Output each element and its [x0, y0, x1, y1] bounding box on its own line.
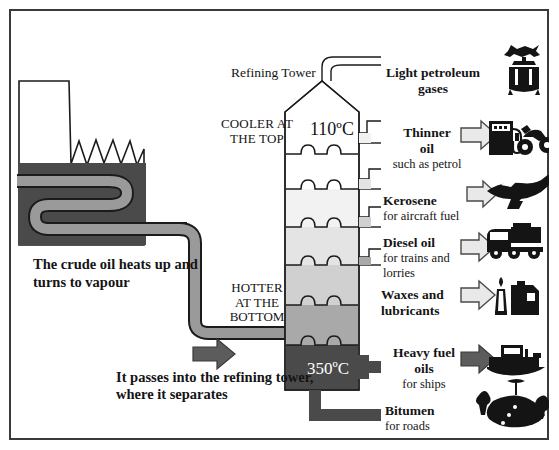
diagram-frame: Refining Tower COOLER AT THE TOP HOTTER … — [9, 9, 549, 440]
label-main2-1: oil — [420, 141, 434, 156]
arrow-passes-into-tower — [193, 339, 235, 369]
gas-stove-icon — [504, 45, 540, 95]
hotter-at-bottom-label: HOTTER AT THE BOTTOM — [209, 281, 305, 325]
label-light-petroleum-gases: Light petroleum gases — [379, 65, 487, 97]
label-sub-1: such as petrol — [383, 157, 471, 172]
label-sub-6: for roads — [385, 419, 469, 434]
label-sub-2: for aircraft fuel — [383, 209, 475, 224]
hotter-line-2: AT THE — [209, 296, 305, 311]
label-main-4: Waxes and — [381, 287, 444, 302]
cooler-at-top-label: COOLER AT THE TOP — [207, 117, 307, 146]
label-kerosene: Kerosene for aircraft fuel — [383, 193, 475, 224]
label-sub-5: for ships — [381, 377, 467, 392]
cooler-line-2: THE TOP — [207, 132, 307, 147]
label-main-5: Heavy fuel — [393, 345, 455, 360]
airplane-icon — [487, 175, 549, 209]
label-main2-4: lubricants — [381, 303, 440, 318]
outlet-stubs — [359, 133, 371, 265]
heavy-fuel-outlet — [353, 355, 381, 379]
hotter-line-3: BOTTOM — [209, 310, 305, 325]
label-main2-0: gases — [418, 81, 448, 96]
label-heavy-fuel-oils: Heavy fuel oils for ships — [381, 345, 467, 392]
label-main2-5: oils — [414, 361, 434, 376]
label-main-0: Light petroleum — [386, 65, 480, 80]
label-diesel-oil: Diesel oil for trains and lorries — [383, 235, 471, 281]
temperature-top: 110ºC — [310, 119, 354, 139]
refining-tower-title: Refining Tower — [231, 65, 316, 80]
ship-icon — [487, 345, 545, 375]
road-icon — [476, 379, 549, 427]
label-main-1: Thinner — [403, 125, 450, 140]
crude-oil-caption: The crude oil heats up and turns to vapo… — [33, 256, 208, 291]
cooler-line-1: COOLER AT — [207, 117, 307, 132]
oil-can-icon — [511, 281, 539, 315]
label-waxes-and-lubricants: Waxes and lubricants — [381, 287, 471, 319]
label-main-2: Kerosene — [383, 193, 437, 208]
candle-icon — [495, 277, 507, 315]
label-main-6: Bitumen — [385, 403, 435, 418]
diagram-root: Refining Tower COOLER AT THE TOP HOTTER … — [0, 0, 559, 450]
truck-icon — [487, 223, 543, 259]
passes-into-tower-caption: It passes into the refining tower, where… — [116, 369, 331, 404]
label-sub-3: for trains and lorries — [383, 251, 471, 281]
label-bitumen: Bitumen for roads — [385, 403, 469, 434]
furnace-group — [17, 81, 187, 245]
label-main-3: Diesel oil — [383, 235, 435, 250]
hotter-line-1: HOTTER — [209, 281, 305, 296]
motorcycle-icon — [517, 125, 549, 155]
petrol-pump-icon — [489, 121, 521, 155]
label-thinner-oil: Thinner oil such as petrol — [383, 125, 471, 172]
